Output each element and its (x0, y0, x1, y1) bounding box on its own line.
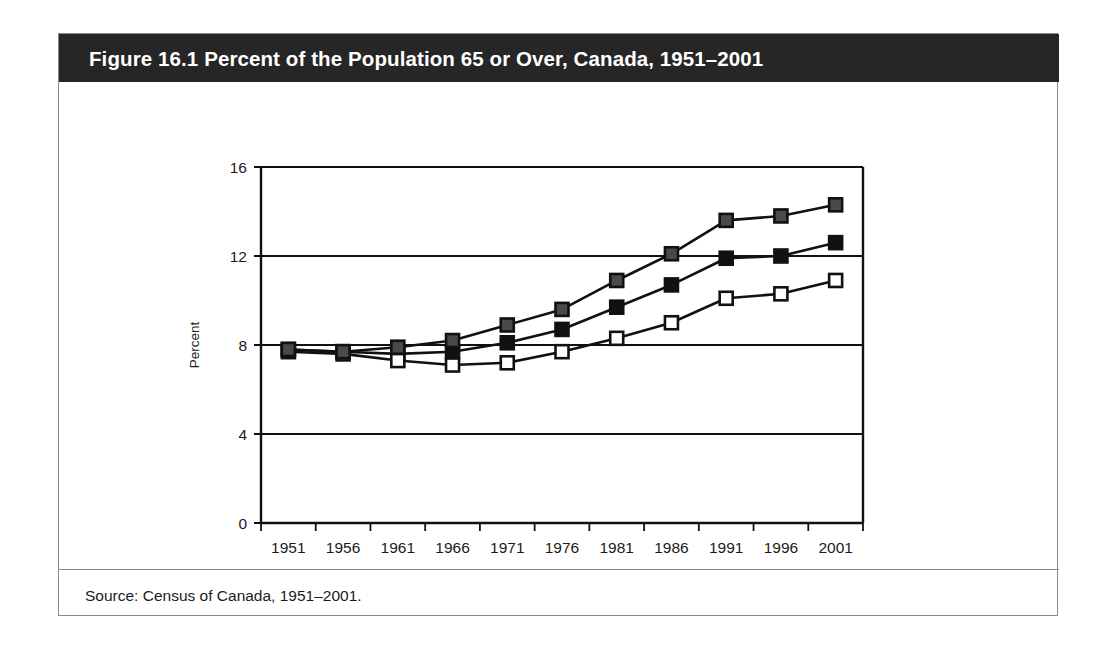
data-point-marker (391, 354, 404, 367)
y-tick-label: 4 (238, 426, 247, 443)
data-point-marker (774, 287, 787, 300)
x-tick-label: 1956 (326, 539, 360, 556)
figure-title: Figure 16.1 Percent of the Population 65… (89, 47, 763, 71)
marker-body (665, 247, 678, 260)
source-divider (59, 569, 1059, 570)
series-total (282, 236, 842, 360)
data-point-marker (556, 303, 569, 316)
y-axis-title: Percent (187, 321, 202, 368)
data-point-marker (829, 236, 842, 249)
data-point-marker (501, 336, 514, 349)
x-tick-label: 1961 (381, 539, 415, 556)
x-tick-label: 1971 (490, 539, 524, 556)
data-point-marker (446, 334, 459, 347)
marker-body (829, 198, 842, 211)
marker-body (337, 345, 350, 358)
data-point-marker (556, 323, 569, 336)
x-tick-label: 1986 (654, 539, 688, 556)
data-point-marker (665, 247, 678, 260)
figure-box: Figure 16.1 Percent of the Population 65… (58, 33, 1058, 616)
data-point-marker (829, 198, 842, 211)
data-point-marker (774, 209, 787, 222)
x-tick-label: 1966 (435, 539, 469, 556)
marker-body (774, 209, 787, 222)
x-tick-label: 1951 (271, 539, 305, 556)
y-tick-label: 16 (230, 159, 247, 176)
data-point-marker (720, 252, 733, 265)
y-gridlines (261, 167, 863, 434)
marker-body (282, 343, 295, 356)
y-tick-label: 8 (238, 337, 247, 354)
y-tick-label: 0 (238, 515, 247, 532)
figure-title-banner: Figure 16.1 Percent of the Population 65… (59, 34, 1059, 82)
y-tick-label: 12 (230, 248, 247, 265)
data-point-marker (665, 316, 678, 329)
marker-body (391, 341, 404, 354)
data-point-marker (282, 343, 295, 356)
data-point-marker (665, 278, 678, 291)
line-chart: 0481216Percent19511956196119661971197619… (59, 82, 1059, 569)
data-point-marker (556, 345, 569, 358)
y-tick-group: 0481216 (230, 159, 261, 532)
data-point-marker (391, 341, 404, 354)
data-point-marker (720, 214, 733, 227)
data-point-marker (829, 274, 842, 287)
x-tick-label: 1976 (545, 539, 579, 556)
data-point-marker (446, 359, 459, 372)
marker-body (610, 274, 623, 287)
x-tick-label: 1981 (599, 539, 633, 556)
marker-body (446, 334, 459, 347)
data-point-marker (337, 345, 350, 358)
data-point-marker (774, 250, 787, 263)
data-point-marker (501, 318, 514, 331)
marker-body (501, 318, 514, 331)
data-point-marker (720, 292, 733, 305)
figure-page: Figure 16.1 Percent of the Population 65… (0, 0, 1107, 666)
data-point-marker (501, 356, 514, 369)
x-tick-label: 1991 (709, 539, 743, 556)
data-point-marker (610, 301, 623, 314)
marker-body (556, 303, 569, 316)
x-tick-label: 2001 (818, 539, 852, 556)
data-point-marker (610, 274, 623, 287)
data-point-marker (610, 332, 623, 345)
x-tick-group: 1951195619611966197119761981198619911996… (261, 523, 863, 556)
source-note: Source: Census of Canada, 1951–2001. (85, 587, 362, 605)
x-tick-label: 1996 (764, 539, 798, 556)
marker-body (720, 214, 733, 227)
chart-area: 0481216Percent19511956196119661971197619… (59, 82, 1059, 569)
